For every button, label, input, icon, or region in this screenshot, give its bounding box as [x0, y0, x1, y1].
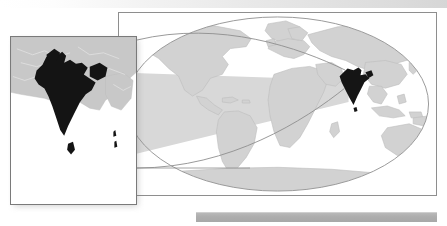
world-map-panel[interactable] [118, 12, 437, 196]
india-inset-panel[interactable] [10, 36, 137, 205]
bottom-gray-bar [196, 212, 437, 222]
world-map-graphic [119, 13, 436, 195]
india-inset-graphic [11, 37, 136, 204]
top-gradient-band [0, 0, 447, 8]
map-figure [0, 0, 447, 226]
